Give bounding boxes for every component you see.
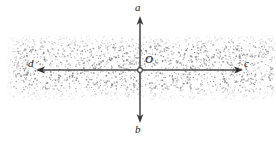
axis-label-d: d (28, 58, 34, 69)
origin-marker (138, 68, 143, 73)
axis-label-c: c (244, 58, 249, 69)
axis-label-b: b (135, 124, 141, 135)
origin-label-o: O (145, 54, 153, 65)
diagram-canvas (0, 0, 276, 141)
geometry-figure: a b d c O (0, 0, 276, 141)
axis-label-a: a (135, 2, 141, 13)
